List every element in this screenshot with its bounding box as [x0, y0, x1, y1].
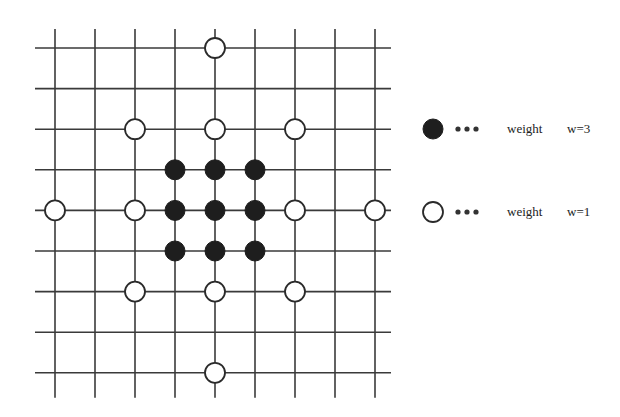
- node-weight-1: [205, 38, 225, 58]
- node-weight-1: [205, 119, 225, 139]
- legend-value: w=3: [567, 121, 590, 136]
- ellipsis-dot: [473, 209, 478, 214]
- node-weight-1: [205, 282, 225, 302]
- node-weight-3: [245, 160, 265, 180]
- node-weight-1: [125, 282, 145, 302]
- ellipsis-dot: [464, 209, 469, 214]
- ellipsis-dot: [473, 126, 478, 131]
- legend-value: w=1: [567, 204, 590, 219]
- filled-circle-icon: [423, 119, 443, 139]
- ellipsis-dot: [455, 126, 460, 131]
- node-weight-1: [125, 200, 145, 220]
- node-weight-3: [245, 200, 265, 220]
- ellipsis-dot: [464, 126, 469, 131]
- node-weight-3: [205, 241, 225, 261]
- node-weight-1: [285, 200, 305, 220]
- node-weight-1: [45, 200, 65, 220]
- node-weight-3: [205, 160, 225, 180]
- legend-label: weight: [507, 121, 543, 136]
- node-weight-3: [165, 200, 185, 220]
- legend-item-light: weight w=1: [423, 202, 590, 222]
- node-weight-3: [165, 160, 185, 180]
- node-weight-1: [125, 119, 145, 139]
- node-weight-3: [165, 241, 185, 261]
- weight-grid-diagram: weight w=3 weight w=1: [0, 0, 620, 417]
- legend-item-heavy: weight w=3: [423, 119, 590, 139]
- node-weight-1: [285, 119, 305, 139]
- node-weight-3: [245, 241, 265, 261]
- node-weight-1: [205, 363, 225, 383]
- legend: weight w=3 weight w=1: [423, 119, 590, 222]
- ellipsis-dot: [455, 209, 460, 214]
- open-circle-icon: [423, 202, 443, 222]
- legend-label: weight: [507, 204, 543, 219]
- node-weight-3: [205, 200, 225, 220]
- node-weight-1: [285, 282, 305, 302]
- node-weight-1: [365, 200, 385, 220]
